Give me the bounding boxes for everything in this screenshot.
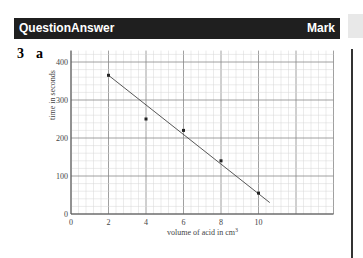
y-tick-label: 0 xyxy=(64,210,68,219)
graph-paper-grid xyxy=(71,51,334,214)
x-tick-label: 10 xyxy=(255,218,263,227)
y-tick-label: 400 xyxy=(56,58,68,67)
graph-chart: 02468100100200300400 volume of acid in c… xyxy=(0,0,363,258)
y-tick-label: 200 xyxy=(56,134,68,143)
y-axis-label: time in seconds xyxy=(48,70,57,120)
axis-ticks: 02468100100200300400 xyxy=(56,58,263,227)
data-point xyxy=(145,118,148,121)
y-tick-label: 100 xyxy=(56,172,68,181)
x-tick-label: 8 xyxy=(219,218,223,227)
x-axis-label: volume of acid in cm3 xyxy=(167,227,238,237)
x-tick-label: 2 xyxy=(107,218,111,227)
data-point xyxy=(182,129,185,132)
x-tick-label: 4 xyxy=(144,218,148,227)
x-tick-label: 0 xyxy=(69,218,73,227)
data-point xyxy=(107,74,110,77)
x-tick-label: 6 xyxy=(182,218,186,227)
data-point xyxy=(220,159,223,162)
data-point xyxy=(257,192,260,195)
y-tick-label: 300 xyxy=(56,96,68,105)
